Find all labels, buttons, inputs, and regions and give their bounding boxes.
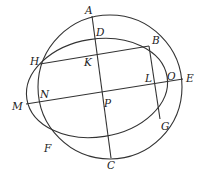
label-L: L xyxy=(144,72,152,84)
label-N: N xyxy=(39,88,50,100)
label-G: G xyxy=(161,120,169,132)
label-A: A xyxy=(84,4,93,16)
circle xyxy=(38,15,182,159)
label-H: H xyxy=(29,55,40,67)
label-B: B xyxy=(151,34,160,46)
label-D: D xyxy=(95,26,105,38)
label-K: K xyxy=(83,56,93,68)
chord-HB xyxy=(40,46,149,64)
label-E: E xyxy=(185,72,194,84)
label-O: O xyxy=(167,70,176,82)
geometry-diagram: A D B H K L O E M N P F G C xyxy=(0,0,202,177)
label-P: P xyxy=(103,97,112,109)
label-M: M xyxy=(11,100,23,112)
label-F: F xyxy=(43,142,52,154)
label-C: C xyxy=(107,159,115,171)
